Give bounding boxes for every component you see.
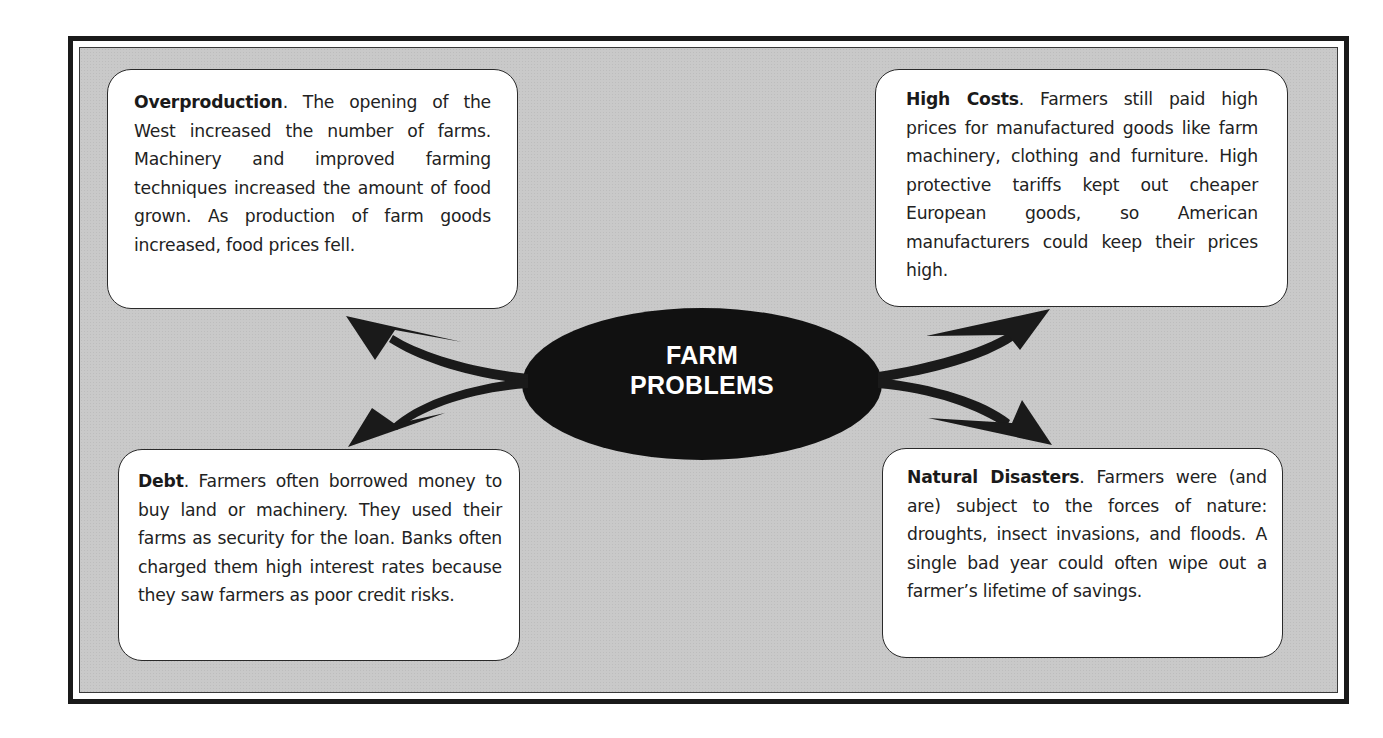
node-title: Overproduction (134, 92, 283, 112)
node-body: . The opening of the West increased the … (134, 92, 491, 255)
hub-label-line2: PROBLEMS (560, 370, 844, 400)
hub-label: FARM PROBLEMS (560, 340, 844, 400)
hub-label-line1: FARM (560, 340, 844, 370)
node-body: . Farmers still paid high prices for man… (906, 89, 1258, 280)
node-title: High Costs (906, 89, 1019, 109)
node-overproduction: Overproduction. The opening of the West … (107, 69, 518, 309)
node-title: Debt (138, 471, 184, 491)
node-natural-disasters: Natural Disasters. Farmers were (and are… (882, 448, 1283, 658)
node-body: . Farmers were (and are) subject to the … (907, 467, 1267, 601)
node-title: Natural Disasters (907, 467, 1079, 487)
node-debt: Debt. Farmers often borrowed money to bu… (118, 449, 520, 661)
node-body: . Farmers often borrowed money to buy la… (138, 471, 502, 605)
node-high-costs: High Costs. Farmers still paid high pric… (875, 69, 1288, 307)
